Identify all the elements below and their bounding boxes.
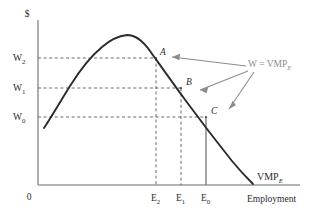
x-axis-title: Employment [247, 194, 296, 204]
point-marker-b [180, 87, 182, 89]
origin-label: 0 [27, 192, 32, 202]
x-tick-e0: E0 [201, 193, 211, 205]
equilibrium-points [155, 57, 207, 118]
chart-canvas: $ W2 W1 W0 0 E2 E1 E0 Employment A B C V… [0, 0, 325, 219]
callout-arrow-to-a [172, 57, 246, 66]
employment-guide-lines [156, 58, 206, 185]
point-marker-c [205, 116, 207, 118]
vmp-curve [44, 35, 253, 184]
x-tick-labels: E2 E1 E0 [151, 193, 211, 205]
curve-label-vmp: VMPE [257, 171, 284, 185]
point-label-c: C [211, 106, 218, 116]
y-tick-w0: W0 [13, 112, 26, 124]
point-label-b: B [186, 77, 192, 87]
point-marker-a [155, 57, 157, 59]
vmp-labor-demand-figure: $ W2 W1 W0 0 E2 E1 E0 Employment A B C V… [0, 0, 325, 219]
callout-arrows [172, 54, 254, 109]
y-tick-labels: W2 W1 W0 [13, 53, 26, 124]
callout-label-w-equals-vmp: W = VMPE [248, 59, 292, 71]
axes-group [38, 20, 300, 185]
arrow-head-a-icon [172, 54, 180, 60]
y-tick-w1: W1 [13, 83, 25, 95]
x-tick-e2: E2 [151, 193, 161, 205]
y-tick-w2: W2 [13, 53, 26, 65]
x-tick-e1: E1 [176, 193, 185, 205]
point-label-a: A [159, 47, 166, 57]
arrow-head-c-icon [229, 101, 236, 109]
y-axis-title: $ [25, 9, 30, 19]
arrow-head-b-icon [200, 87, 208, 94]
